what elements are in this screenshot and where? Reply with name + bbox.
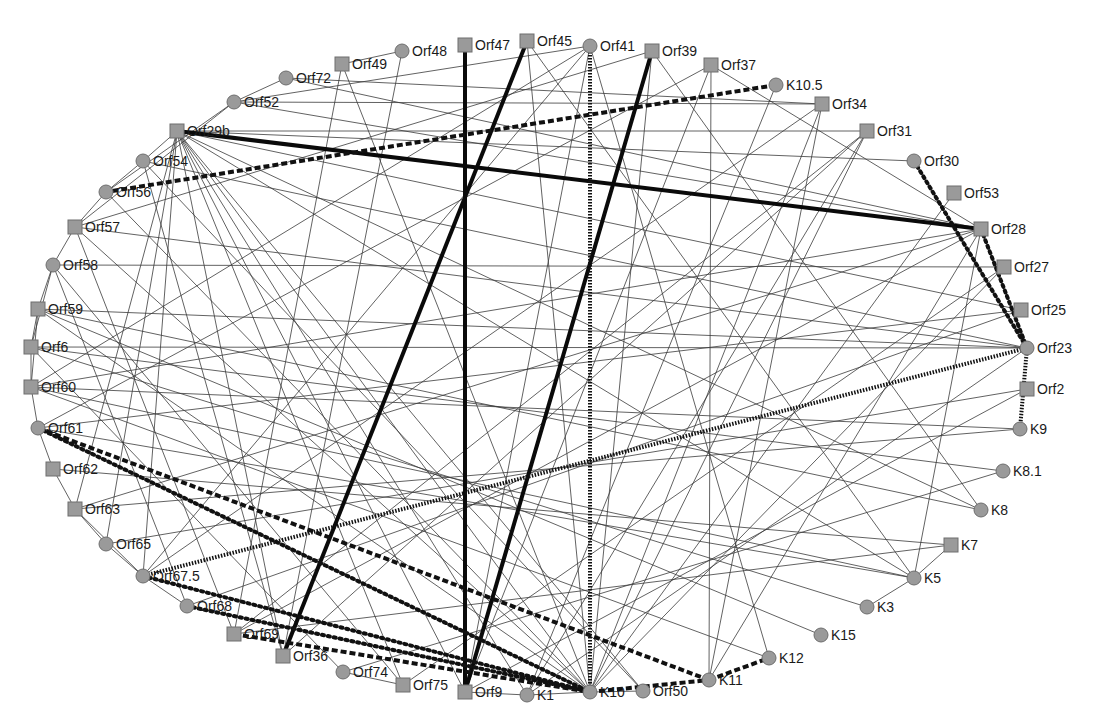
node-label: Orf50	[653, 683, 688, 699]
node-k12: K12	[762, 650, 804, 666]
circle-node-icon	[814, 628, 828, 642]
node-label: Orf23	[1037, 340, 1072, 356]
square-node-icon	[458, 38, 472, 52]
strong-edge-dotted	[981, 229, 1027, 348]
node-k8: K8	[974, 502, 1008, 518]
node-label: K12	[779, 650, 804, 666]
node-label: Orf6	[41, 339, 68, 355]
node-orf9: Orf9	[458, 684, 502, 700]
node-label: Orf53	[964, 185, 999, 201]
strong-edge-thick	[177, 131, 981, 229]
node-label: Orf54	[153, 153, 188, 169]
nodes-layer: Orf47Orf45Orf41Orf39Orf37K10.5Orf34Orf31…	[24, 33, 1072, 703]
node-orf59: Orf59	[31, 301, 83, 317]
node-orf67-5: Orf67.5	[136, 568, 200, 584]
square-node-icon	[46, 462, 60, 476]
node-orf27: Orf27	[997, 259, 1049, 275]
node-orf48: Orf48	[395, 43, 447, 59]
circle-node-icon	[395, 44, 409, 58]
circle-node-icon	[279, 71, 293, 85]
edge	[465, 65, 711, 692]
edge	[590, 46, 769, 658]
node-k10: K10	[583, 684, 625, 700]
circle-node-icon	[636, 684, 650, 698]
circle-node-icon	[907, 154, 921, 168]
node-label: Orf68	[197, 598, 232, 614]
node-orf68: Orf68	[180, 598, 232, 614]
circle-node-icon	[996, 464, 1010, 478]
square-node-icon	[68, 502, 82, 516]
edge	[38, 309, 821, 635]
node-orf74: Orf74	[336, 664, 388, 680]
node-orf72: Orf72	[279, 70, 331, 86]
node-orf41: Orf41	[583, 38, 635, 54]
circle-node-icon	[99, 537, 113, 551]
node-orf37: Orf37	[704, 57, 756, 73]
node-orf62: Orf62	[46, 461, 98, 477]
node-label: Orf57	[85, 219, 120, 235]
node-orf63: Orf63	[68, 501, 120, 517]
node-orf2: Orf2	[1020, 381, 1064, 397]
square-node-icon	[520, 34, 534, 48]
node-label: K10.5	[786, 77, 823, 93]
square-node-icon	[974, 222, 988, 236]
node-orf69: Orf69	[227, 626, 279, 642]
circle-node-icon	[520, 688, 534, 702]
edge	[652, 51, 981, 510]
edge	[106, 102, 234, 192]
node-k11: K11	[702, 672, 743, 688]
circle-node-icon	[769, 78, 783, 92]
edge	[465, 389, 1027, 692]
square-node-icon	[704, 58, 718, 72]
circle-node-icon	[136, 569, 150, 583]
node-orf25: Orf25	[1014, 302, 1066, 318]
edge	[709, 104, 822, 680]
edge	[709, 65, 711, 680]
node-orf31: Orf31	[860, 123, 912, 139]
node-label: Orf48	[412, 43, 447, 59]
circle-node-icon	[99, 185, 113, 199]
node-label: Orf61	[48, 420, 83, 436]
node-k3: K3	[860, 599, 894, 615]
edge	[527, 348, 1027, 695]
edge	[286, 78, 822, 104]
node-k15: K15	[814, 627, 856, 643]
circle-node-icon	[31, 421, 45, 435]
node-label: K5	[924, 570, 941, 586]
circle-node-icon	[860, 600, 874, 614]
node-orf54: Orf54	[136, 153, 188, 169]
square-node-icon	[68, 220, 82, 234]
node-label: Orf74	[353, 664, 388, 680]
node-label: K10	[600, 684, 625, 700]
node-k7: K7	[944, 537, 978, 553]
edge	[527, 131, 867, 695]
node-label: Orf72	[296, 70, 331, 86]
square-node-icon	[24, 380, 38, 394]
edge	[106, 192, 590, 692]
node-label: K1	[537, 687, 554, 703]
edge	[709, 229, 981, 680]
node-label: Orf69	[244, 626, 279, 642]
square-node-icon	[227, 627, 241, 641]
node-label: Orf45	[537, 33, 572, 49]
edge	[53, 469, 951, 545]
edge	[234, 229, 981, 634]
node-label: Orf41	[600, 38, 635, 54]
node-label: Orf31	[877, 123, 912, 139]
square-node-icon	[944, 538, 958, 552]
node-orf45: Orf45	[520, 33, 572, 49]
node-label: Orf47	[475, 37, 510, 53]
node-orf34: Orf34	[815, 96, 867, 112]
edge	[143, 161, 1027, 348]
node-label: Orf65	[116, 536, 151, 552]
edge	[286, 78, 981, 229]
edge	[31, 347, 1027, 348]
node-orf30: Orf30	[907, 153, 959, 169]
circle-node-icon	[702, 673, 716, 687]
node-orf39: Orf39	[645, 43, 697, 59]
circle-node-icon	[227, 95, 241, 109]
node-orf75: Orf75	[396, 677, 448, 693]
edge	[234, 131, 867, 634]
node-label: Orf75	[413, 677, 448, 693]
square-node-icon	[1020, 382, 1034, 396]
